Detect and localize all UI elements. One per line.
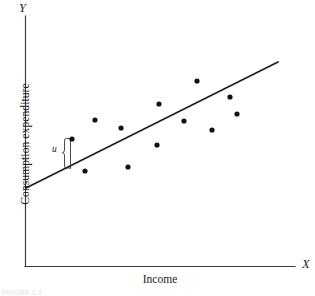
data-point <box>154 142 159 147</box>
data-point <box>194 78 199 83</box>
data-point <box>181 118 186 123</box>
y-axis-tip-label: Y <box>19 2 26 15</box>
y-axis-title: Consumption expenditure <box>19 64 31 224</box>
error-term-label: u <box>52 145 57 155</box>
data-point <box>125 164 130 169</box>
figure-caption: FIGURE 1.1 <box>2 289 42 296</box>
regression-line <box>26 62 278 188</box>
x-axis-tip-label: X <box>302 258 310 271</box>
data-point <box>227 94 232 99</box>
data-point <box>209 127 214 132</box>
data-point-group <box>69 78 239 173</box>
data-point <box>156 101 161 106</box>
data-point <box>82 168 87 173</box>
data-point <box>118 125 123 130</box>
data-point <box>92 117 97 122</box>
error-brace <box>62 139 70 169</box>
data-point <box>234 111 239 116</box>
scatter-plot-figure: Y X Consumption expenditure Income u FIG… <box>0 0 315 296</box>
data-point <box>69 136 74 141</box>
x-axis-title: Income <box>25 273 295 285</box>
plot-canvas <box>0 0 315 296</box>
